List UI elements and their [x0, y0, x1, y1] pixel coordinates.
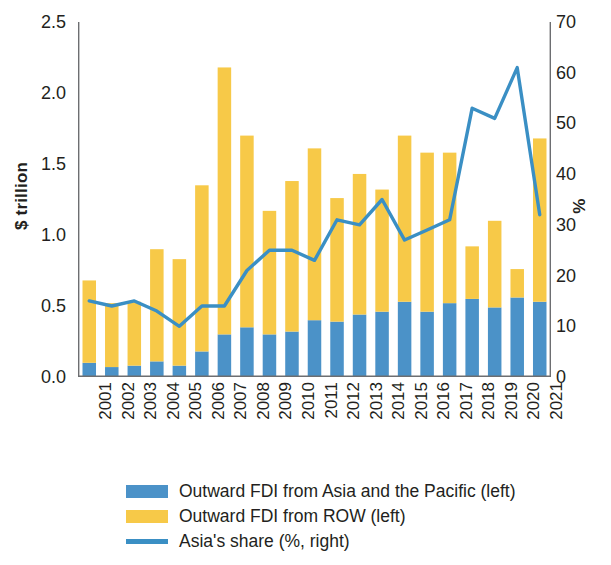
bar-asia-2009	[263, 334, 277, 377]
legend-bar-swatch-icon	[126, 510, 168, 523]
bar-row-2017	[443, 153, 457, 304]
bar-asia-2007	[218, 334, 232, 377]
legend-label-0: Outward FDI from Asia and the Pacific (l…	[179, 483, 516, 501]
y-tick-label-right-70: 70	[556, 13, 596, 31]
x-tick-label-2016: 2016	[434, 382, 454, 452]
y-axis-right-tick-labels: 010203040506070	[556, 0, 600, 400]
bar-asia-2004	[150, 361, 164, 377]
x-tick-label-2015: 2015	[412, 382, 432, 452]
bar-asia-2019	[488, 307, 502, 377]
bar-asia-2003	[128, 366, 142, 377]
legend-label-1: Outward FDI from ROW (left)	[179, 508, 406, 526]
bar-row-2013	[353, 174, 367, 315]
bar-row-2008	[240, 136, 254, 328]
x-tick-label-2012: 2012	[344, 382, 364, 452]
x-tick-label-2008: 2008	[254, 382, 274, 452]
y-tick-label-left-1.5: 1.5	[14, 155, 66, 173]
bar-asia-2017	[443, 303, 457, 377]
x-tick-label-2002: 2002	[119, 382, 139, 452]
fdi-stacked-bar-chart: $ trillion % 0.00.51.01.52.02.5 01020304…	[0, 0, 611, 565]
legend-item-0[interactable]: Outward FDI from Asia and the Pacific (l…	[126, 479, 596, 504]
x-tick-label-2004: 2004	[164, 382, 184, 452]
x-tick-label-2001: 2001	[96, 382, 116, 452]
bar-row-2003	[128, 302, 142, 366]
legend-label-2: Asia's share (%, right)	[179, 533, 350, 551]
bar-asia-2010	[285, 332, 299, 377]
y-tick-label-left-0.5: 0.5	[14, 297, 66, 315]
bar-asia-2002	[105, 367, 119, 377]
y-tick-label-right-20: 20	[556, 267, 596, 285]
bar-row-2004	[150, 249, 164, 361]
legend-item-2[interactable]: Asia's share (%, right)	[126, 529, 596, 554]
legend-item-1[interactable]: Outward FDI from ROW (left)	[126, 504, 596, 529]
y-tick-label-right-10: 10	[556, 317, 596, 335]
bar-row-2020	[510, 269, 524, 297]
bar-asia-2015	[398, 302, 412, 377]
bar-asia-2001	[83, 363, 97, 377]
y-tick-label-left-2.0: 2.0	[14, 84, 66, 102]
y-tick-label-right-40: 40	[556, 165, 596, 183]
bar-asia-2013	[353, 315, 367, 377]
bar-row-2015	[398, 136, 412, 302]
y-tick-label-left-2.5: 2.5	[14, 13, 66, 31]
x-tick-label-2018: 2018	[479, 382, 499, 452]
x-tick-label-2009: 2009	[276, 382, 296, 452]
bar-asia-2006	[195, 351, 209, 377]
bars-layer	[83, 67, 547, 377]
x-tick-label-2019: 2019	[502, 382, 522, 452]
x-tick-label-2005: 2005	[186, 382, 206, 452]
y-tick-label-right-60: 60	[556, 64, 596, 82]
bar-row-2002	[105, 303, 119, 367]
x-tick-label-2020: 2020	[524, 382, 544, 452]
bar-asia-2008	[240, 327, 254, 377]
plot-svg	[78, 22, 551, 377]
plot-area	[78, 22, 551, 377]
bar-asia-2014	[375, 312, 389, 377]
x-tick-label-2021: 2021	[547, 382, 567, 452]
bar-row-2001	[83, 280, 97, 362]
chart-legend: Outward FDI from Asia and the Pacific (l…	[126, 479, 596, 554]
x-tick-label-2010: 2010	[299, 382, 319, 452]
x-tick-label-2007: 2007	[231, 382, 251, 452]
bar-row-2021	[533, 138, 547, 301]
x-tick-label-2003: 2003	[141, 382, 161, 452]
y-tick-label-right-50: 50	[556, 114, 596, 132]
bar-row-2005	[173, 259, 187, 366]
bar-asia-2005	[173, 366, 187, 377]
legend-bar-swatch-icon	[126, 485, 168, 498]
bar-row-2019	[488, 221, 502, 308]
bar-row-2012	[330, 198, 344, 322]
x-tick-label-2014: 2014	[389, 382, 409, 452]
bar-row-2011	[308, 148, 322, 320]
y-tick-label-left-1.0: 1.0	[14, 226, 66, 244]
bar-asia-2020	[510, 297, 524, 377]
y-axis-left-tick-labels: 0.00.51.01.52.02.5	[10, 0, 66, 400]
x-tick-label-2006: 2006	[209, 382, 229, 452]
bar-row-2018	[465, 246, 479, 299]
bar-asia-2021	[533, 302, 547, 377]
bar-row-2007	[218, 67, 232, 334]
bar-asia-2016	[420, 312, 434, 377]
bar-row-2009	[263, 211, 277, 335]
bar-asia-2011	[308, 320, 322, 377]
bar-asia-2018	[465, 299, 479, 377]
y-tick-label-left-0.0: 0.0	[14, 368, 66, 386]
bar-row-2010	[285, 181, 299, 332]
bar-row-2006	[195, 185, 209, 351]
x-tick-label-2017: 2017	[457, 382, 477, 452]
x-tick-label-2011: 2011	[322, 382, 342, 452]
y-tick-label-right-30: 30	[556, 216, 596, 234]
legend-line-swatch-icon	[126, 539, 168, 544]
x-tick-label-2013: 2013	[367, 382, 387, 452]
bar-asia-2012	[330, 322, 344, 377]
x-axis-tick-labels: 2001200220032004200520062007200820092010…	[78, 382, 551, 457]
